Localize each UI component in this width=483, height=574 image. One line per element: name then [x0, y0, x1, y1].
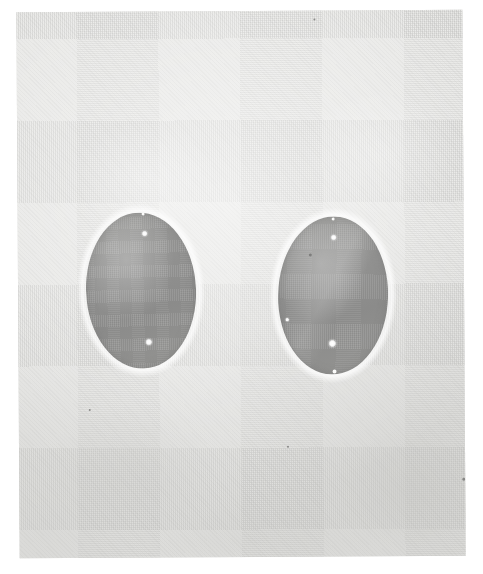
paper-fleck-right [462, 478, 465, 481]
right-oval-specimen-dark-fleck-upper-left [308, 253, 311, 256]
paper-blotch-upper-right [299, 89, 460, 220]
left-oval-specimen-highlight-spot-top [142, 231, 148, 237]
right-oval-specimen-highlight-spot-bottom [328, 339, 336, 347]
left-oval-specimen-edge-nick-top [141, 212, 144, 215]
paper-blotch-bottom-band [121, 499, 381, 558]
right-oval-specimen-edge-nick-bottom [333, 369, 337, 373]
screenshot-root [0, 0, 483, 574]
right-oval-specimen-edge-nick-top [331, 217, 334, 220]
photographic-plate [16, 10, 465, 559]
paper-fleck-bottom-left [89, 409, 91, 411]
right-oval-specimen-highlight-spot-top [331, 234, 337, 240]
paper-blotch-lower-left [46, 400, 217, 531]
right-oval-specimen-highlight-spot-left-edge [285, 318, 289, 322]
paper-fleck-top [313, 19, 315, 21]
left-oval-specimen-highlight-spot-bottom [145, 338, 152, 345]
paper-fleck-mid-right [287, 446, 289, 448]
paper-blotch-lower-right [331, 428, 466, 549]
